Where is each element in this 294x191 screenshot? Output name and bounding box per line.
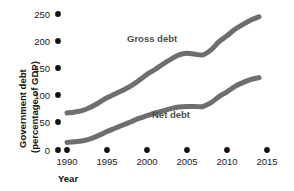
y-tick-label-250: 250: [34, 9, 50, 20]
y-tick-dot-200: [55, 38, 61, 44]
y-axis-tick-dots: [55, 11, 61, 153]
series-label-net-debt: Net debt: [152, 109, 191, 120]
y-tick-dot-250: [55, 11, 61, 17]
x-tick-dot-1995: [104, 147, 110, 153]
x-tick-dot-2015: [264, 147, 270, 153]
series-label-gross-debt: Gross debt: [127, 33, 178, 44]
x-tick-label-2005: 2005: [176, 156, 197, 167]
y-axis-title-line1: Government debt: [17, 69, 28, 148]
y-axis-title: Government debt (percentage of GDP): [17, 61, 40, 153]
government-debt-line-chart: 250 200 150 100 50 0 1990 1995 2000: [0, 0, 294, 191]
y-tick-dot-50: [55, 119, 61, 125]
x-axis-tick-dots: [64, 147, 270, 153]
y-tick-dot-150: [55, 65, 61, 71]
x-tick-label-2000: 2000: [136, 156, 157, 167]
y-tick-label-200: 200: [34, 36, 50, 47]
x-tick-dot-2000: [144, 147, 150, 153]
x-tick-label-2010: 2010: [216, 156, 237, 167]
x-tick-label-1990: 1990: [56, 156, 77, 167]
y-tick-dot-0: [55, 147, 61, 153]
x-tick-label-2015: 2015: [256, 156, 277, 167]
chart-container: 250 200 150 100 50 0 1990 1995 2000: [0, 0, 294, 191]
y-tick-label-0: 0: [45, 145, 50, 156]
x-tick-dot-2005: [184, 147, 190, 153]
x-tick-dot-1990: [64, 147, 70, 153]
y-axis-title-line2: (percentage of GDP): [29, 61, 40, 153]
x-tick-dot-2010: [224, 147, 230, 153]
x-tick-label-1995: 1995: [96, 156, 117, 167]
x-axis-title: Year: [58, 173, 78, 184]
y-tick-label-50: 50: [39, 117, 50, 128]
y-tick-dot-100: [55, 92, 61, 98]
series-line-gross-debt: [67, 17, 259, 113]
x-axis-tick-labels: 1990 1995 2000 2005 2010 2015: [56, 156, 277, 167]
